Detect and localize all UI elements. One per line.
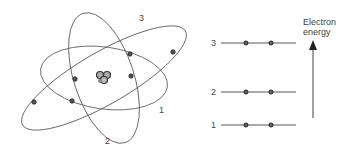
level-label-3: 3: [211, 38, 216, 48]
orbit-label-2: 2: [105, 136, 110, 146]
energy-levels: [221, 43, 296, 125]
level-label-1: 1: [211, 120, 216, 130]
energy-arrow: [309, 40, 317, 118]
level-electrons: [244, 41, 273, 127]
nucleus: [97, 72, 111, 84]
level-label-2: 2: [211, 87, 216, 97]
axis-label-energy: energy: [303, 27, 331, 37]
orbit-label-1: 1: [159, 105, 164, 115]
orbit-label-3: 3: [139, 13, 144, 23]
atom-energy-diagram: 3 1 2 3 2 1 Electron energy: [0, 0, 352, 149]
arrow-up-icon: [309, 40, 317, 50]
axis-label-electron: Electron: [303, 17, 336, 27]
